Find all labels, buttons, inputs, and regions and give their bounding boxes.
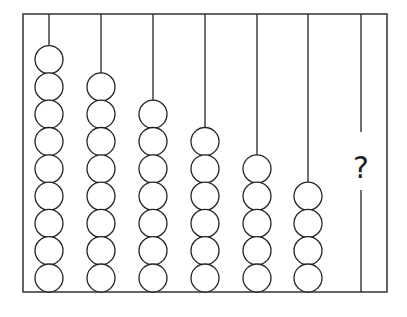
bead (294, 182, 322, 210)
bead (243, 264, 271, 292)
bead (35, 100, 63, 128)
bead (139, 264, 167, 292)
abacus-diagram: ? (0, 0, 407, 317)
rod-6 (294, 14, 322, 292)
bead (35, 182, 63, 210)
bead (87, 237, 115, 265)
bead (243, 237, 271, 265)
bead (35, 209, 63, 237)
rod-7: ? (353, 14, 369, 292)
bead (294, 237, 322, 265)
bead (35, 73, 63, 101)
bead (35, 237, 63, 265)
rod-3 (139, 14, 167, 292)
bead (139, 155, 167, 183)
bead (87, 264, 115, 292)
bead (243, 209, 271, 237)
rod-4 (191, 14, 219, 292)
bead (35, 128, 63, 156)
bead (35, 46, 63, 74)
bead (35, 155, 63, 183)
bead (139, 237, 167, 265)
bead (139, 209, 167, 237)
bead (87, 182, 115, 210)
question-mark-label: ? (353, 150, 369, 185)
bead (139, 182, 167, 210)
bead (294, 209, 322, 237)
bead (139, 100, 167, 128)
rod-5 (243, 14, 271, 292)
rods-group: ? (35, 14, 369, 292)
rod-1 (35, 14, 63, 292)
bead (191, 264, 219, 292)
bead (243, 182, 271, 210)
bead (87, 155, 115, 183)
bead (87, 209, 115, 237)
bead (191, 128, 219, 156)
bead (35, 264, 63, 292)
bead (191, 182, 219, 210)
bead (191, 155, 219, 183)
bead (139, 128, 167, 156)
bead (191, 209, 219, 237)
rod-2 (87, 14, 115, 292)
bead (87, 128, 115, 156)
bead (87, 100, 115, 128)
bead (243, 155, 271, 183)
bead (294, 264, 322, 292)
bead (191, 237, 219, 265)
bead (87, 73, 115, 101)
